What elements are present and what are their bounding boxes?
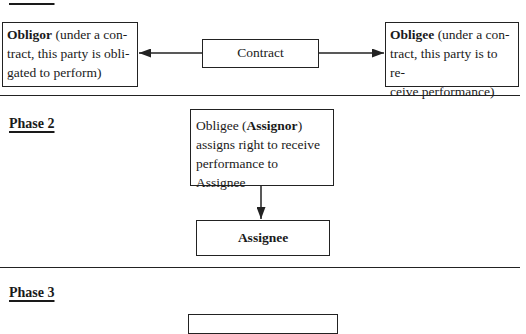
obligor-title: Obligor: [7, 27, 52, 42]
assignor-text-3: performance to Assignee: [196, 154, 328, 192]
obligor-text-2: tract, this party is obli-: [7, 44, 133, 63]
phase-3-label: Phase 3: [9, 285, 55, 301]
assignor-text-2: assigns right to receive: [196, 135, 328, 154]
assignee-label: Assignee: [238, 230, 288, 245]
obligee-title: Obligee: [390, 27, 434, 42]
obligee-text-1: (under a con-: [434, 27, 509, 42]
obligee-text-3: ceive performance): [390, 82, 514, 101]
contract-label: Contract: [237, 45, 284, 60]
obligor-text-1: (under a con-: [52, 27, 127, 42]
assignee-box: Assignee: [196, 220, 330, 256]
assignor-post: ): [298, 118, 303, 133]
obligor-text-3: gated to perform): [7, 63, 133, 82]
assignor-title: Assignor: [247, 118, 298, 133]
obligee-text-2: tract, this party is to re-: [390, 44, 514, 82]
assignor-box: Obligee (Assignor) assigns right to rece…: [190, 109, 334, 186]
divider-2: [0, 267, 520, 268]
obligor-box: Obligor (under a con- tract, this party …: [2, 22, 138, 87]
phase-2-label: Phase 2: [9, 116, 55, 132]
phase-3-box: [188, 314, 338, 334]
assignor-pre: Obligee (: [196, 118, 247, 133]
obligee-box: Obligee (under a con- tract, this party …: [385, 22, 519, 87]
divider-1: [0, 95, 520, 96]
contract-box: Contract: [202, 39, 319, 68]
